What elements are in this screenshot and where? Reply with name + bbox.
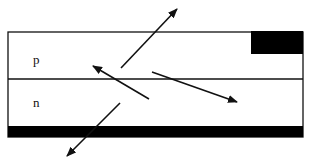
pn-junction-diagram [0, 0, 311, 163]
bottom-contact [8, 126, 303, 137]
n-region-label: n [33, 96, 40, 109]
p-region-label: p [33, 53, 40, 66]
top-contact [251, 31, 303, 54]
